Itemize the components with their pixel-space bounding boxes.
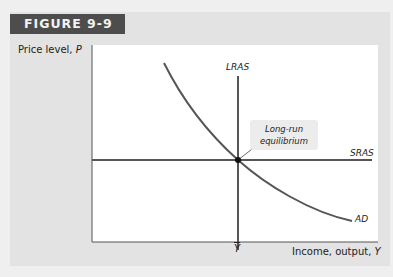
sras-label: SRAS	[350, 148, 374, 158]
y-bar-symbol: Y	[234, 243, 240, 254]
chart-svg	[0, 0, 393, 277]
x-axis-label: Income, output, Y	[292, 246, 381, 257]
y-axis-label-var: P	[76, 44, 82, 55]
ad-label: AD	[355, 214, 368, 224]
x-axis-label-var: Y	[375, 246, 381, 257]
callout-line-1: Long-run	[250, 123, 318, 135]
long-run-equilibrium-callout: Long-run equilibrium	[250, 120, 318, 150]
equilibrium-dot	[235, 157, 241, 163]
callout-line-2: equilibrium	[250, 135, 318, 147]
y-bar-tick-label: Y	[234, 243, 240, 254]
x-axis-label-text: Income, output,	[292, 246, 375, 257]
y-axis-label-text: Price level,	[18, 44, 76, 55]
y-axis-label: Price level, P	[18, 44, 82, 55]
lras-label: LRAS	[226, 62, 249, 72]
